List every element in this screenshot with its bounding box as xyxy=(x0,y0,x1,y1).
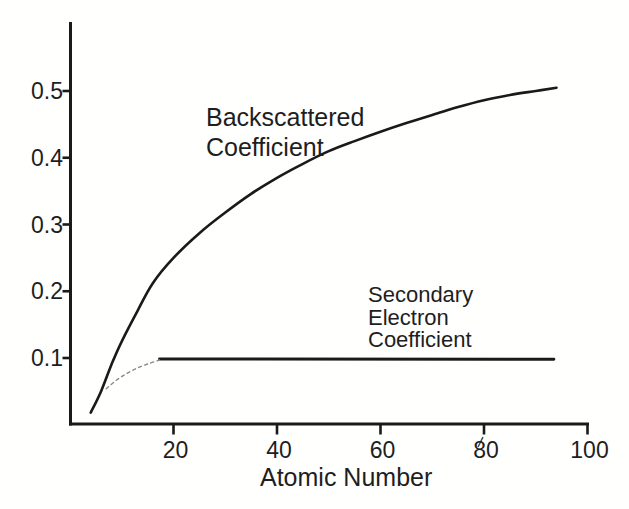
y-tick-label: 0.4 xyxy=(3,146,63,170)
y-tick-label: 0.5 xyxy=(3,79,63,103)
y-tick-label: 0.1 xyxy=(3,346,63,370)
x-axis-title: Atomic Number xyxy=(260,463,432,491)
secondary-curve-label: Secondary Electron Coefficient xyxy=(368,284,473,352)
sem-coefficients-figure: Backscattered Coefficient Secondary Elec… xyxy=(0,0,629,509)
backscattered-curve-label: Backscattered Coefficient xyxy=(206,102,364,162)
backscattered-curve-label-line2: Coefficient xyxy=(206,132,364,162)
x-tick-label: 100 xyxy=(560,438,620,462)
axes xyxy=(63,22,590,435)
backscattered-curve-label-line1: Backscattered xyxy=(206,102,364,132)
y-tick-label: 0.2 xyxy=(3,279,63,303)
y-tick-label: 0.3 xyxy=(3,213,63,237)
secondary-electron-dashed-rise xyxy=(106,360,159,389)
secondary-curve-label-line2: Electron xyxy=(368,307,473,330)
x-tick-label: 20 xyxy=(146,438,206,462)
x-tick-label: 40 xyxy=(249,438,309,462)
x-tick-label: 60 xyxy=(353,438,413,462)
secondary-curve-label-line3: Coefficient xyxy=(368,329,473,352)
chart-canvas xyxy=(0,0,629,509)
x-tick-label: 80 xyxy=(456,438,516,462)
secondary-curve-label-line1: Secondary xyxy=(368,284,473,307)
